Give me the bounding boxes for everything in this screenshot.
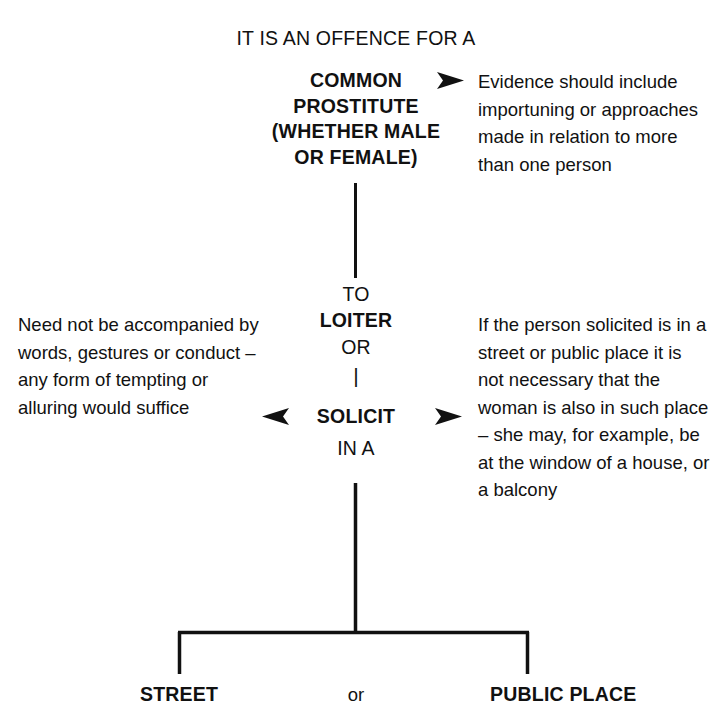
annotation-evidence: Evidence should include importuning or a… <box>478 68 708 178</box>
subject-line-4: OR FEMALE) <box>206 145 506 171</box>
offence-flowchart: IT IS AN OFFENCE FOR A COMMON PROSTITUTE… <box>0 0 712 717</box>
arrow-right-icon <box>436 70 466 92</box>
arrow-left-icon <box>260 406 290 428</box>
subject-line-3: (WHETHER MALE <box>206 119 506 145</box>
page-title: IT IS AN OFFENCE FOR A <box>0 27 712 50</box>
leaf-node-public-place: PUBLIC PLACE <box>490 683 690 706</box>
centre-word-to: TO <box>0 283 712 306</box>
leaf-conjunction: or <box>306 684 406 706</box>
subject-line-2: PROSTITUTE <box>206 94 506 120</box>
annotation-person-solicited: If the person solicited is in a street o… <box>478 311 710 504</box>
arrow-right-icon-2 <box>434 406 464 428</box>
leaf-node-street: STREET <box>140 683 290 706</box>
annotation-need-not-be-accompanied: Need not be accompanied by words, gestur… <box>18 311 263 421</box>
